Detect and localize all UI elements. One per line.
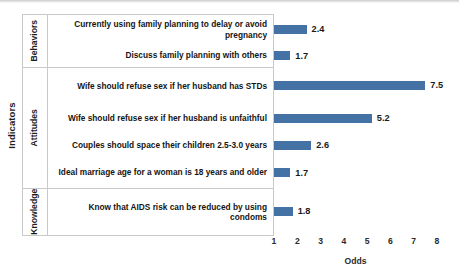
category-label: Ideal marriage age for a woman is 18 yea… (48, 157, 273, 188)
bar-row: 2.4 (274, 14, 437, 44)
bar[interactable] (274, 114, 372, 123)
bar-value-label: 5.2 (377, 113, 390, 123)
bar-value-label: 1.7 (295, 168, 308, 178)
bar[interactable] (274, 81, 425, 90)
group-row-attitudes: Attitudes Wife should refuse sex if her … (22, 68, 274, 189)
category-label: Wife should refuse sex if her husband is… (48, 104, 273, 134)
bar-value-label: 1.8 (298, 206, 311, 216)
category-label: Couples should space their children 2.5-… (48, 133, 273, 157)
group-row-knowledge: Knowledge Know that AIDS risk can be red… (22, 189, 274, 235)
bar-group-behaviors: 2.4 1.7 (274, 14, 437, 67)
plot-area: 2.4 1.7 7.5 5.2 2.6 (274, 14, 437, 236)
x-axis-tick: 8 (435, 236, 440, 246)
category-label: Discuss family planning with others (48, 44, 273, 67)
category-label-grid: Behaviors Currently using family plannin… (22, 14, 274, 236)
scan-artifact-top (0, 0, 459, 3)
x-axis: 12345678 (274, 236, 437, 250)
group-band-attitudes: Attitudes (22, 68, 48, 188)
bar-group-knowledge: 1.8 (274, 188, 437, 234)
x-axis-title: Odds (274, 256, 437, 266)
bar[interactable] (274, 168, 290, 177)
group-row-behaviors: Behaviors Currently using family plannin… (22, 15, 274, 68)
bar-value-label: 2.6 (316, 140, 329, 150)
bar[interactable] (274, 141, 311, 150)
x-axis-tick: 3 (318, 236, 323, 246)
group-band-label-attitudes: Attitudes (30, 109, 40, 146)
bar[interactable] (274, 51, 290, 60)
y-axis-title: Indicators (0, 14, 22, 236)
bar-row: 2.6 (274, 133, 437, 157)
bar-value-label: 2.4 (312, 24, 325, 34)
bar-row: 1.8 (274, 188, 437, 234)
bar-row: 1.7 (274, 44, 437, 67)
category-label: Wife should refuse sex if her husband ha… (48, 68, 273, 104)
bar-rows: 2.4 1.7 7.5 5.2 2.6 (274, 14, 437, 236)
bar-value-label: 1.7 (295, 51, 308, 61)
bar[interactable] (274, 207, 293, 216)
category-label: Currently using family planning to delay… (48, 15, 273, 44)
category-labels-attitudes: Wife should refuse sex if her husband ha… (48, 68, 274, 188)
group-band-behaviors: Behaviors (22, 15, 48, 67)
x-axis-tick: 5 (365, 236, 370, 246)
group-band-label-knowledge: Knowledge (30, 189, 40, 235)
group-band-knowledge: Knowledge (22, 189, 48, 235)
x-axis-tick: 2 (295, 236, 300, 246)
x-axis-tick: 4 (341, 236, 346, 246)
bar-row: 7.5 (274, 67, 437, 103)
category-label: Know that AIDS risk can be reduced by us… (48, 189, 273, 235)
y-axis-title-label: Indicators (6, 102, 17, 148)
x-axis-tick: 1 (272, 236, 277, 246)
category-labels-behaviors: Currently using family planning to delay… (48, 15, 274, 67)
group-band-label-behaviors: Behaviors (30, 20, 40, 62)
x-axis-tick: 7 (411, 236, 416, 246)
odds-bar-chart: Indicators Behaviors Currently using fam… (0, 0, 459, 278)
bar-row: 5.2 (274, 103, 437, 133)
category-labels-knowledge: Know that AIDS risk can be reduced by us… (48, 189, 274, 235)
bar-group-attitudes: 7.5 5.2 2.6 1.7 (274, 67, 437, 188)
bar[interactable] (274, 25, 307, 34)
bar-value-label: 7.5 (430, 80, 443, 90)
bar-row: 1.7 (274, 157, 437, 188)
x-axis-tick: 6 (388, 236, 393, 246)
